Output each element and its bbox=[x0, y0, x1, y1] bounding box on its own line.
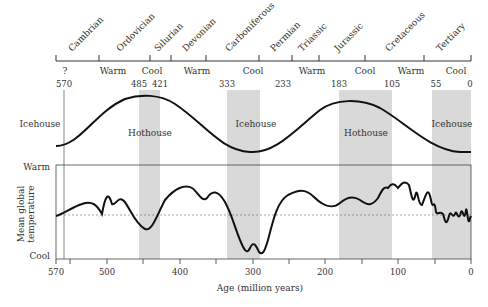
climate-3: Warm bbox=[184, 66, 211, 76]
label-icehouse-3: Icehouse bbox=[432, 119, 473, 129]
climate-6: Cool bbox=[355, 66, 376, 76]
age-333: 333 bbox=[219, 79, 235, 89]
climate-5: Warm bbox=[299, 66, 326, 76]
shaded-band-1 bbox=[139, 90, 160, 259]
age-55: 55 bbox=[431, 79, 442, 89]
climate-7: Warm bbox=[398, 66, 425, 76]
age-485: 485 bbox=[131, 79, 147, 89]
x-axis-title: Age (million years) bbox=[216, 283, 303, 293]
period-labels: Cambrian Ordovician Silurian Devonian Ca… bbox=[66, 0, 467, 54]
period-ordovician: Ordovician bbox=[114, 11, 157, 54]
label-icehouse-2: Icehouse bbox=[236, 119, 277, 129]
age-233: 233 bbox=[275, 79, 291, 89]
x-tick-0: 0 bbox=[468, 267, 473, 277]
temperature-plot-frame bbox=[56, 165, 471, 259]
climate-4: Cool bbox=[243, 66, 264, 76]
period-devonian: Devonian bbox=[180, 16, 218, 54]
y-axis-title-line1: Mean global bbox=[16, 186, 26, 243]
age-183: 183 bbox=[331, 79, 347, 89]
x-axis bbox=[56, 259, 471, 264]
boundary-ages: 570 485 421 333 233 183 105 55 0 bbox=[56, 79, 473, 89]
climate-8: Cool bbox=[446, 66, 467, 76]
climate-2: Cool bbox=[142, 66, 163, 76]
age-105: 105 bbox=[384, 79, 400, 89]
y-axis-title-line2: temperature bbox=[26, 185, 36, 242]
label-hothouse-2: Hothouse bbox=[344, 128, 388, 138]
label-hothouse-1: Hothouse bbox=[128, 128, 172, 138]
y-label-cool: Cool bbox=[29, 251, 50, 261]
x-tick-100: 100 bbox=[390, 267, 406, 277]
shaded-band-3 bbox=[339, 90, 392, 259]
period-jurassic: Jurassic bbox=[332, 21, 365, 54]
climate-labels: ? Warm Cool Warm Cool Warm Cool Warm Coo… bbox=[63, 66, 467, 76]
climate-chart: Cambrian Ordovician Silurian Devonian Ca… bbox=[0, 0, 488, 307]
period-silurian: Silurian bbox=[152, 21, 185, 54]
period-cretaceous: Cretaceous bbox=[383, 10, 427, 54]
period-tertiary: Tertiary bbox=[434, 20, 467, 53]
age-570: 570 bbox=[56, 79, 72, 89]
age-0: 0 bbox=[467, 79, 472, 89]
y-label-warm: Warm bbox=[23, 162, 50, 172]
x-tick-400: 400 bbox=[172, 267, 188, 277]
period-axis bbox=[56, 55, 471, 61]
x-tick-300: 300 bbox=[245, 267, 261, 277]
period-cambrian: Cambrian bbox=[66, 14, 105, 53]
age-421: 421 bbox=[152, 79, 168, 89]
x-tick-labels: 570 500 400 300 200 100 0 bbox=[48, 267, 474, 277]
x-tick-200: 200 bbox=[317, 267, 333, 277]
label-icehouse-1: Icehouse bbox=[20, 119, 61, 129]
x-tick-570: 570 bbox=[48, 267, 64, 277]
shaded-band-4 bbox=[432, 90, 471, 259]
climate-0: ? bbox=[63, 66, 68, 76]
climate-1: Warm bbox=[100, 66, 127, 76]
shaded-band-2 bbox=[227, 90, 260, 259]
x-tick-500: 500 bbox=[99, 267, 115, 277]
temperature-curve bbox=[56, 182, 471, 253]
